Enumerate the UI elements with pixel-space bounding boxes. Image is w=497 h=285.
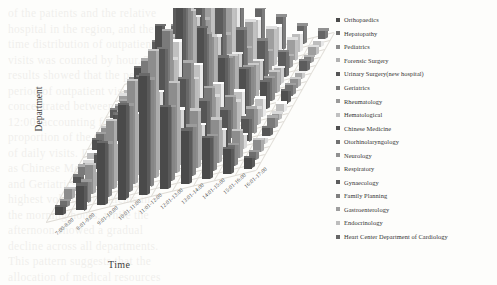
legend-item[interactable]: Rheumatology <box>336 94 496 108</box>
bar-top-face <box>213 82 224 84</box>
bar-top-face <box>313 39 324 41</box>
legend-item[interactable]: Gastroenterology <box>336 203 496 217</box>
bar-side-face <box>237 100 240 131</box>
bar-top-face <box>81 179 92 181</box>
legend-swatch-icon <box>336 153 340 157</box>
bar-top-face <box>262 126 273 128</box>
bar-side-face <box>84 184 87 211</box>
bar-side-face <box>172 105 175 181</box>
legend-item[interactable]: Urinary Surgery(new hospital) <box>336 67 496 81</box>
x-axis-title: Time <box>108 259 130 270</box>
bar-top-face <box>60 199 71 201</box>
bar-top-face <box>139 73 150 75</box>
bar-top-face <box>223 147 234 149</box>
bar-side-face <box>135 79 138 183</box>
bar-top-face <box>241 116 252 118</box>
chart-bar <box>118 105 126 199</box>
bar-top-face <box>267 115 278 117</box>
bar-front-face <box>64 189 72 199</box>
bar-side-face <box>105 141 108 204</box>
bar-top-face <box>232 129 243 131</box>
legend-item-label: Rheumatology <box>344 98 382 105</box>
bar-top-face <box>239 67 250 69</box>
chart-bar <box>202 138 210 179</box>
legend-item[interactable]: Geriatrics <box>336 81 496 95</box>
legend-swatch-icon <box>336 86 340 90</box>
bar-front-face <box>202 138 210 179</box>
bar-side-face <box>219 118 222 163</box>
bar-side-face <box>156 49 159 178</box>
legend-item[interactable]: Family Planning <box>336 189 496 203</box>
legend-item[interactable]: Forensic Surgery <box>336 54 496 68</box>
chart-bar <box>55 207 63 215</box>
bar-front-face <box>181 131 189 184</box>
legend-swatch-icon <box>336 167 340 171</box>
legend-item[interactable]: Endocrinology <box>336 216 496 230</box>
chart-bar <box>97 143 105 205</box>
legend-item[interactable]: Gynaecology <box>336 176 496 190</box>
legend-item[interactable]: Heart Center Department of Cardiology <box>336 230 496 244</box>
legend-swatch-icon <box>336 235 340 239</box>
bar-top-face <box>287 37 298 39</box>
bar-side-face <box>177 81 180 173</box>
legend-item[interactable]: Hematological <box>336 108 496 122</box>
chart-legend: OrthopaedicsHepatopathyPediatricsForensi… <box>336 13 496 243</box>
chart-bar <box>181 131 189 184</box>
bar-side-face <box>93 163 96 194</box>
legend-item[interactable]: Otorhinolaryngology <box>336 135 496 149</box>
legend-item[interactable]: Respiratory <box>336 162 496 176</box>
legend-item[interactable]: Hepatopathy <box>336 27 496 41</box>
bar-top-face <box>295 71 306 73</box>
bar-top-face <box>148 49 159 51</box>
bar-front-face <box>244 158 252 168</box>
legend-swatch-icon <box>336 58 340 62</box>
bar-top-face <box>64 187 75 189</box>
bar-top-face <box>211 117 222 119</box>
bar-side-face <box>300 32 303 52</box>
bar-front-face <box>223 149 231 174</box>
bar-top-face <box>118 103 129 105</box>
bar-top-face <box>220 107 231 109</box>
bar-top-face <box>304 55 315 57</box>
bar-side-face <box>295 38 298 60</box>
legend-item[interactable]: Pediatrics <box>336 40 496 54</box>
bar-side-face <box>290 54 293 68</box>
legend-item-label: Orthopaedics <box>344 16 379 23</box>
bar-top-face <box>281 89 292 91</box>
bar-top-face <box>308 45 319 47</box>
bar-side-face <box>244 133 247 149</box>
bar-side-face <box>286 50 289 77</box>
legend-item[interactable]: Chinese Medicine <box>336 121 496 135</box>
legend-swatch-icon <box>336 126 340 130</box>
bar-top-face <box>266 26 277 28</box>
legend-item[interactable]: Orthopaedics <box>336 13 496 27</box>
bar-side-face <box>249 117 252 142</box>
chart-bar <box>299 61 307 71</box>
bar-side-face <box>304 24 307 44</box>
bar-top-face <box>181 128 192 130</box>
bar-top-face <box>246 106 257 108</box>
bar-top-face <box>127 79 138 81</box>
legend-item-label: Hematological <box>344 111 382 118</box>
bar-side-face <box>251 65 254 106</box>
legend-item-label: Hepatopathy <box>344 30 377 37</box>
bar-side-face <box>261 138 264 152</box>
bar-front-face <box>118 105 126 199</box>
legend-item-label: Urinary Surgery(new hospital) <box>344 70 424 77</box>
bar-top-face <box>269 70 280 72</box>
bar-top-face <box>292 31 303 33</box>
legend-item[interactable]: Neurology <box>336 148 496 162</box>
bar-top-face <box>73 174 84 176</box>
bar-top-face <box>228 143 239 145</box>
bar-top-face <box>162 29 173 31</box>
chart-bar <box>64 189 72 199</box>
bar-top-face <box>276 101 287 103</box>
bar-front-face <box>299 61 307 71</box>
bar-side-face <box>267 80 270 109</box>
bar-side-face <box>151 78 154 187</box>
bar-top-face <box>253 59 264 61</box>
legend-swatch-icon <box>336 180 340 184</box>
bar-side-face <box>88 180 91 202</box>
bar-top-face <box>190 108 201 110</box>
legend-item-label: Endocrinology <box>344 219 383 226</box>
